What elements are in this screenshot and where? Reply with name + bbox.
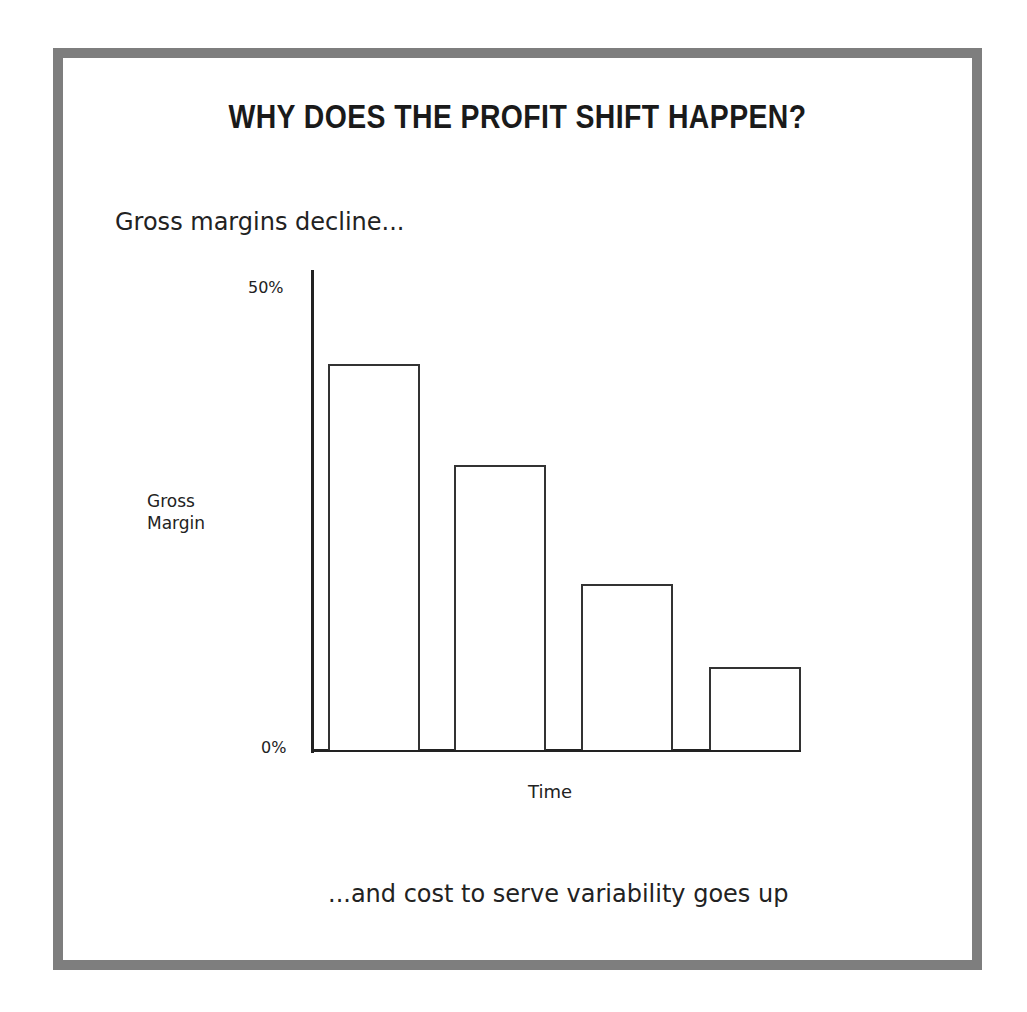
chart-caption: ...and cost to serve variability goes up: [328, 880, 788, 908]
y-axis-label: Gross Margin: [147, 490, 205, 534]
bar-3: [581, 584, 673, 750]
chart-title: WHY DOES THE PROFIT SHIFT HAPPEN?: [127, 98, 909, 136]
y-axis-label-line1: Gross: [147, 490, 205, 512]
chart-frame: WHY DOES THE PROFIT SHIFT HAPPEN? Gross …: [53, 48, 982, 970]
chart-subtitle: Gross margins decline...: [115, 208, 404, 236]
x-axis-label: Time: [528, 781, 572, 802]
bar-4: [709, 667, 801, 750]
bar-2: [454, 465, 546, 750]
y-tick-50: 50%: [248, 278, 284, 297]
y-axis-label-line2: Margin: [147, 512, 205, 534]
y-axis-line: [311, 270, 314, 753]
bar-1: [328, 364, 420, 750]
y-tick-0: 0%: [261, 738, 286, 757]
